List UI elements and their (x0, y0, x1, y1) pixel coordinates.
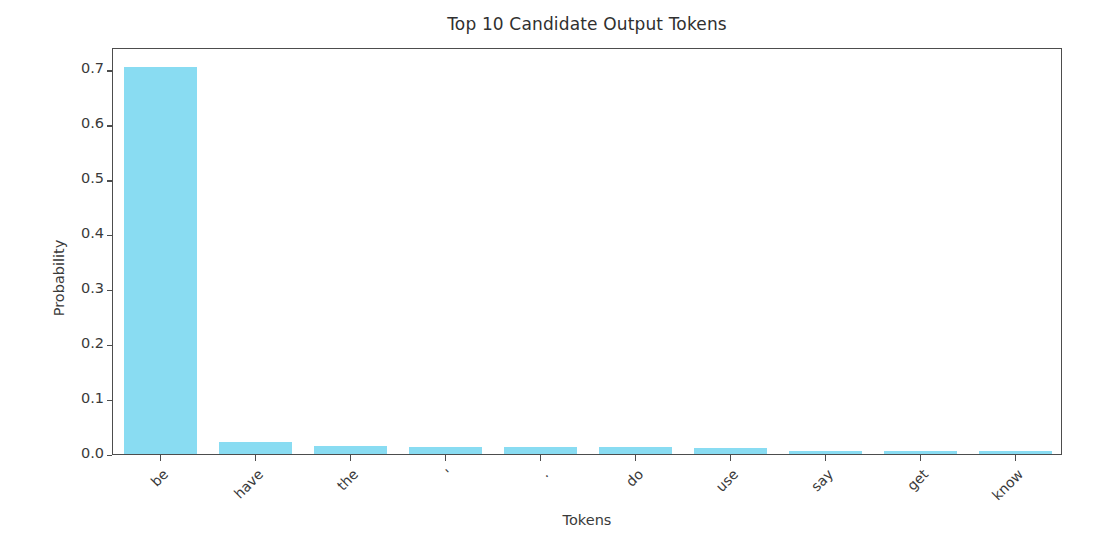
bar (124, 67, 197, 454)
plot-axes (112, 48, 1062, 455)
y-tick-label: 0.3 (44, 280, 104, 296)
x-tick-mark (730, 455, 731, 461)
bar (409, 447, 482, 454)
y-tick-label: 0.5 (44, 170, 104, 186)
x-tick-mark (540, 455, 541, 461)
bar (219, 442, 292, 454)
x-tick-mark (445, 455, 446, 461)
x-tick-mark (350, 455, 351, 461)
y-tick-label: 0.6 (44, 115, 104, 131)
bar (314, 446, 387, 454)
y-tick-mark (107, 125, 112, 126)
bar (694, 448, 767, 454)
bar (599, 447, 672, 454)
y-tick-mark (107, 290, 112, 291)
x-tick-mark (635, 455, 636, 461)
x-tick-mark (160, 455, 161, 461)
x-tick-mark (1015, 455, 1016, 461)
bar (789, 451, 862, 454)
y-tick-label: 0.2 (44, 335, 104, 351)
bar (979, 451, 1052, 454)
y-tick-mark (107, 180, 112, 181)
y-tick-mark (107, 235, 112, 236)
x-axis-label: Tokens (112, 512, 1062, 528)
y-tick-label: 0.4 (44, 225, 104, 241)
y-tick-label: 0.1 (44, 390, 104, 406)
plot-area (113, 49, 1061, 454)
y-tick-mark (107, 345, 112, 346)
figure: Top 10 Candidate Output Tokens Probabili… (0, 0, 1119, 555)
x-tick-label: be (18, 466, 171, 555)
x-tick-mark (920, 455, 921, 461)
y-tick-label: 0.7 (44, 60, 104, 76)
bar (884, 451, 957, 454)
y-tick-mark (107, 400, 112, 401)
y-tick-mark (107, 70, 112, 71)
y-tick-label: 0.0 (44, 445, 104, 461)
y-tick-mark (107, 455, 112, 456)
x-tick-mark (255, 455, 256, 461)
chart-title: Top 10 Candidate Output Tokens (112, 14, 1062, 34)
x-tick-mark (825, 455, 826, 461)
y-axis-label: Probability (51, 239, 67, 316)
bar (504, 447, 577, 454)
